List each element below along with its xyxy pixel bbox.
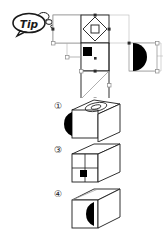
option-4[interactable]: ④ xyxy=(50,186,164,230)
option-1[interactable]: ① xyxy=(50,98,164,142)
handle xyxy=(94,57,97,60)
net-face-top-left[interactable] xyxy=(53,15,81,43)
handle-open xyxy=(66,56,69,59)
tip-label: Tip xyxy=(20,18,39,30)
handle xyxy=(108,28,111,31)
cube-net-diagram[interactable] xyxy=(50,10,164,98)
worksheet-page: Tip xyxy=(0,0,164,238)
handle xyxy=(94,14,97,17)
option-3-black-square xyxy=(80,170,87,177)
option-3-cube xyxy=(72,144,120,182)
handle xyxy=(51,28,54,31)
handle-open xyxy=(108,84,111,87)
handle-open xyxy=(52,42,55,45)
cube-front-face xyxy=(72,110,98,138)
cube-front-face xyxy=(72,200,98,228)
option-3[interactable]: ③ xyxy=(50,142,164,186)
net-small-black-square xyxy=(83,47,92,56)
option-4-cube xyxy=(72,189,120,228)
net-face-semicircle[interactable] xyxy=(129,43,157,71)
option-1-cube xyxy=(72,100,120,142)
handle xyxy=(94,70,97,73)
handle-open xyxy=(80,70,83,73)
handle-open xyxy=(156,42,159,45)
option-1-semicircle xyxy=(64,112,72,136)
net-face-diamond[interactable] xyxy=(81,15,109,43)
handle xyxy=(128,42,131,45)
handle-open xyxy=(156,70,159,73)
